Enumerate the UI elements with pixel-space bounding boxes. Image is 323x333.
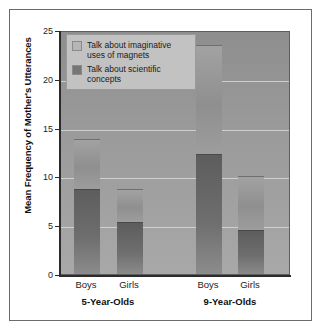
- legend-label-imaginative: Talk about imaginativeuses of magnets: [87, 40, 171, 60]
- bar-segment-scientific: [117, 222, 143, 275]
- group-label-5-year-olds: 5-Year-Olds: [48, 296, 168, 307]
- y-tick-label-20: 20: [27, 75, 53, 85]
- bar-9yo-boys: [196, 45, 222, 275]
- bar-segment-scientific: [238, 230, 264, 275]
- y-tick-label-0: 0: [27, 270, 53, 280]
- legend-swatch-imaginative-icon: [72, 41, 82, 51]
- x-tick-label-5yo-girls: Girls: [99, 279, 159, 290]
- chart-legend: Talk about imaginativeuses of magnets Ta…: [66, 34, 196, 90]
- chart-figure: Mean Frequency of Mother's Utterances 25…: [0, 0, 323, 333]
- legend-item-imaginative: Talk about imaginativeuses of magnets: [72, 40, 189, 60]
- bar-segment-imaginative: [238, 176, 264, 231]
- y-tick-label-10: 10: [27, 172, 53, 182]
- legend-item-scientific: Talk about scientificconcepts: [72, 64, 189, 84]
- bar-segment-imaginative: [196, 45, 222, 154]
- y-tick-label-15: 15: [27, 124, 53, 134]
- x-axis-line: [59, 275, 291, 277]
- y-tick-label-25: 25: [27, 26, 53, 36]
- gridline-15: [61, 130, 289, 131]
- bar-5yo-boys: [74, 139, 100, 275]
- y-tick-label-5: 5: [27, 221, 53, 231]
- plot-area: Talk about imaginativeuses of magnets Ta…: [60, 31, 290, 275]
- bar-segment-imaginative: [74, 139, 100, 189]
- bar-9yo-girls: [238, 176, 264, 276]
- x-tick-label-9yo-girls: Girls: [220, 279, 280, 290]
- group-label-9-year-olds: 9-Year-Olds: [170, 296, 290, 307]
- bar-segment-scientific: [196, 154, 222, 275]
- bar-segment-imaginative: [117, 189, 143, 222]
- y-axis-line: [59, 31, 61, 276]
- legend-swatch-scientific-icon: [72, 65, 82, 75]
- bar-5yo-girls: [117, 189, 143, 275]
- bar-segment-scientific: [74, 189, 100, 275]
- legend-label-scientific: Talk about scientificconcepts: [87, 64, 161, 84]
